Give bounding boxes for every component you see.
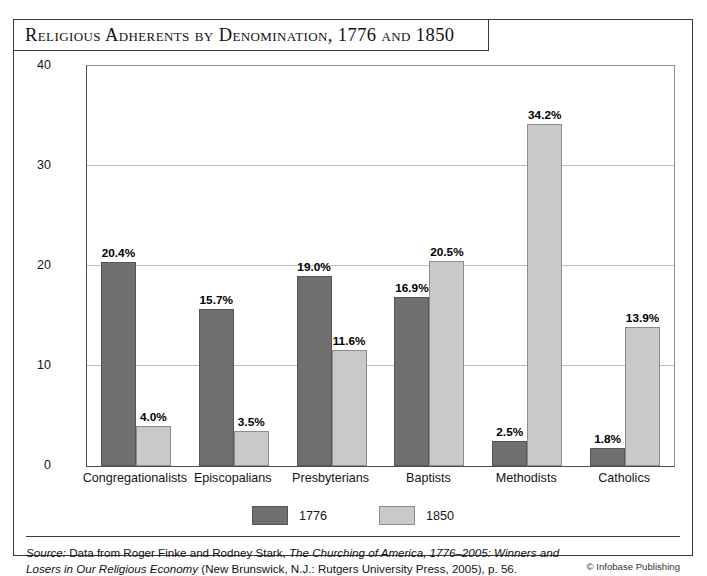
y-axis-tick-40: 40 (17, 58, 51, 72)
bar-value-label: 11.6% (333, 334, 366, 348)
bar-value-label: 1.8% (594, 432, 621, 446)
x-axis-label-catholics: Catholics (598, 471, 650, 485)
bar-1850-congregationalists: 4.0% (136, 426, 171, 466)
bar-value-label: 34.2% (528, 108, 561, 122)
x-axis-label-episcopalians: Episcopalians (194, 471, 272, 485)
source-label: Source: (26, 546, 66, 559)
bar-1850-baptists: 20.5% (429, 261, 464, 466)
y-axis-tick-20: 20 (17, 258, 51, 272)
copyright-notice: © Infobase Publishing (587, 545, 680, 572)
x-axis-label-presbyterians: Presbyterians (292, 471, 369, 485)
y-axis-tick-0: 0 (17, 458, 51, 472)
bar-1776-congregationalists: 20.4% (101, 262, 136, 466)
page-title: Religious Adherents by Denomination, 177… (14, 25, 454, 46)
chart-area: Percentage of Religious Adherents (as pe… (14, 51, 692, 555)
legend-swatch-1850 (379, 506, 415, 525)
footer-divider (26, 536, 680, 537)
bar-1776-presbyterians: 19.0% (297, 276, 332, 466)
bar-1776-baptists: 16.9% (394, 297, 429, 466)
source-note: Source: Data from Roger Finke and Rodney… (26, 545, 586, 576)
bar-value-label: 2.5% (496, 425, 523, 439)
bar-1850-methodists: 34.2% (527, 124, 562, 466)
plot-area: 20.4%4.0%15.7%3.5%19.0%11.6%16.9%20.5%2.… (86, 65, 675, 467)
gridline-30 (87, 165, 674, 166)
legend-label-1776: 1776 (299, 509, 327, 523)
chart-legend: 1776 1850 (14, 506, 692, 525)
source-text-1: Data from Roger Finke and Rodney Stark, (66, 546, 289, 559)
bar-value-label: 3.5% (238, 415, 265, 429)
legend-swatch-1776 (252, 506, 288, 525)
x-axis-label-congregationalists: Congregationalists (83, 471, 187, 485)
source-text-2: (New Brunswick, N.J.: Rutgers University… (198, 562, 517, 575)
bar-value-label: 15.7% (200, 293, 233, 307)
y-axis-tick-10: 10 (17, 358, 51, 372)
bar-1776-episcopalians: 15.7% (199, 309, 234, 466)
legend-item-1776: 1776 (252, 506, 327, 525)
figure-footer: Source: Data from Roger Finke and Rodney… (26, 545, 680, 576)
chart-title-box: Religious Adherents by Denomination, 177… (14, 20, 489, 51)
bar-1776-methodists: 2.5% (492, 441, 527, 466)
x-axis-label-methodists: Methodists (496, 471, 557, 485)
legend-item-1850: 1850 (379, 506, 454, 525)
bar-1850-catholics: 13.9% (625, 327, 660, 466)
bar-value-label: 20.5% (430, 245, 463, 259)
bar-1776-catholics: 1.8% (590, 448, 625, 466)
bar-value-label: 19.0% (297, 260, 330, 274)
gridline-10 (87, 365, 674, 366)
legend-label-1850: 1850 (426, 509, 454, 523)
figure-frame: Religious Adherents by Denomination, 177… (13, 19, 693, 556)
gridline-20 (87, 265, 674, 266)
y-axis-tick-30: 30 (17, 158, 51, 172)
x-axis-label-baptists: Baptists (406, 471, 451, 485)
bar-1850-presbyterians: 11.6% (332, 350, 367, 466)
bar-value-label: 4.0% (140, 410, 167, 424)
bar-value-label: 20.4% (102, 246, 135, 260)
bar-value-label: 13.9% (626, 311, 659, 325)
bar-1850-episcopalians: 3.5% (234, 431, 269, 466)
bar-value-label: 16.9% (395, 281, 428, 295)
